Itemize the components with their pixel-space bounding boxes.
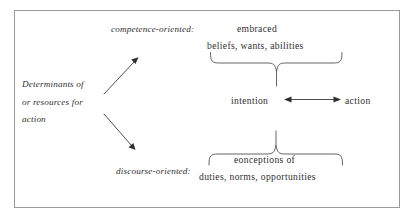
intention-text: intention — [231, 96, 268, 106]
embraced-text: embraced — [237, 24, 277, 34]
determinants-line-3: action — [22, 114, 114, 124]
figure-root: Determinants of or resources for action … — [0, 0, 415, 220]
duties-norms-opportunities-text: duties, norms, opportunities — [199, 172, 316, 182]
discourse-oriented-label: discourse-oriented: — [116, 167, 191, 176]
determinants-line-1: Determinants of — [22, 79, 114, 89]
determinants-block: Determinants of or resources for action — [22, 79, 114, 132]
action-text: action — [345, 96, 371, 106]
determinants-line-2: or resources for — [22, 97, 114, 107]
beliefs-wants-abilities-text: beliefs, wants, abilities — [207, 41, 304, 51]
conceptions-of-text: eonceptions of — [234, 155, 295, 165]
competence-oriented-label: competence-oriented: — [111, 25, 194, 34]
